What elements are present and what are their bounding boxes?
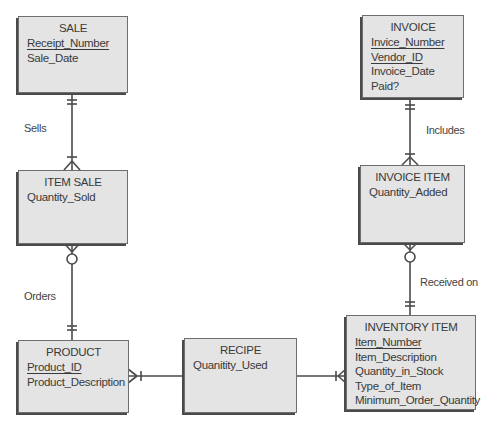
relationship-label-orders: Orders [24, 290, 56, 302]
relationship-label-sells: Sells [24, 122, 46, 134]
recipe-inventory-connector [296, 369, 346, 383]
entity-title: INVOICE [371, 20, 455, 34]
entity-title: INVENTORY ITEM [355, 320, 467, 334]
attribute: Quantity_in_Stock [355, 364, 467, 379]
entity-title: INVOICE ITEM [369, 170, 456, 184]
entity-product: PRODUCT Product_ID Product_Description [18, 340, 129, 413]
includes-connector [402, 97, 418, 165]
orders-connector [64, 243, 80, 340]
attribute: Sale_Date [27, 51, 119, 66]
attribute: Paid? [371, 79, 455, 94]
relationship-label-received-on: Received on [420, 276, 478, 288]
attribute-pk: Item_Number [355, 335, 467, 350]
relationship-label-includes: Includes [426, 124, 465, 136]
product-recipe-connector [128, 369, 184, 383]
attribute: Quantity_Added [369, 185, 456, 200]
entity-title: RECIPE [193, 343, 288, 357]
entity-invoice: INVOICE Invice_Number Vendor_ID Invoice_… [362, 15, 464, 98]
entity-title: ITEM SALE [27, 175, 119, 189]
entity-recipe: RECIPE Quanitity_Used [184, 338, 297, 413]
entity-title: PRODUCT [27, 345, 120, 359]
attribute: Type_of_Item [355, 379, 467, 394]
entity-inventory-item: INVENTORY ITEM Item_Number Item_Descript… [346, 315, 476, 410]
received-on-connector [402, 242, 418, 315]
attribute: Quanitity_Used [193, 358, 288, 373]
attribute: Invoice_Date [371, 64, 455, 79]
attribute: Product_Description [27, 375, 120, 390]
entity-title: SALE [27, 21, 119, 35]
attribute-pk: Invice_Number [371, 35, 455, 50]
sells-connector [64, 92, 80, 170]
attribute: Quantity_Sold [27, 190, 119, 205]
entity-item-sale: ITEM SALE Quantity_Sold [18, 170, 128, 244]
attribute-pk: Receipt_Number [27, 36, 119, 51]
entity-invoice-item: INVOICE ITEM Quantity_Added [360, 165, 465, 243]
attribute-pk: Vendor_ID [371, 50, 455, 65]
entity-sale: SALE Receipt_Number Sale_Date [18, 16, 128, 93]
attribute: Item_Description [355, 350, 467, 365]
attribute: Minimum_Order_Quantity [355, 393, 467, 408]
attribute-pk: Product_ID [27, 360, 120, 375]
